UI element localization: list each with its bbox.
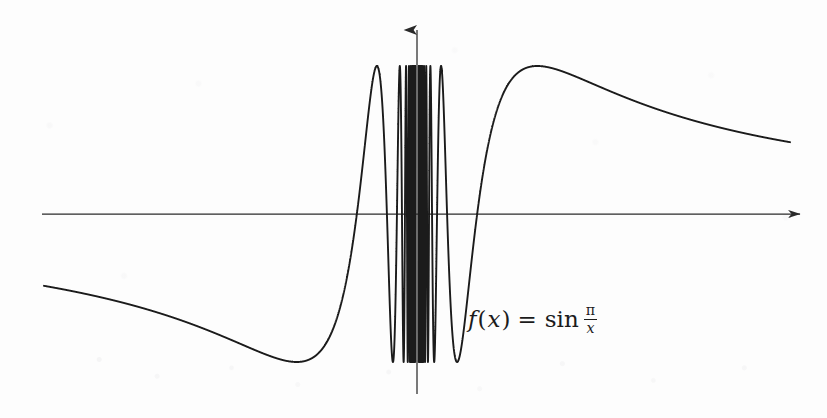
formula-close-paren: ) xyxy=(500,306,511,332)
formula-fraction: πx xyxy=(584,303,597,337)
figure-canvas: f(x)=sinπx xyxy=(0,0,827,418)
formula-fraction-denominator: x xyxy=(584,320,597,336)
formula-function-name: f xyxy=(468,306,477,332)
formula-open-paren: ( xyxy=(477,306,488,332)
function-plot xyxy=(0,0,827,418)
function-formula-label: f(x)=sinπx xyxy=(468,303,597,337)
formula-fraction-numerator: π xyxy=(584,303,597,319)
formula-equals-sign: = xyxy=(511,306,542,332)
formula-sin-operator: sin xyxy=(543,306,579,332)
formula-argument: x xyxy=(488,306,501,332)
